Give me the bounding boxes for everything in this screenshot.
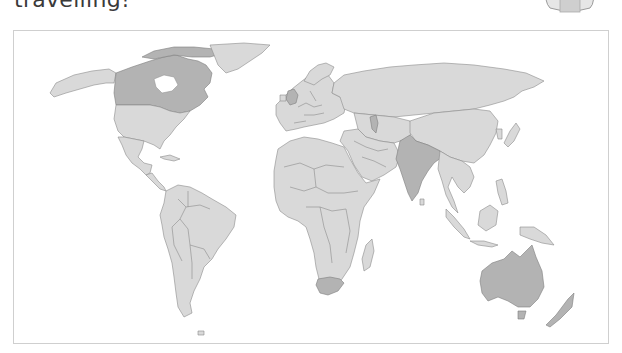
page-heading: travelling!: [14, 0, 130, 12]
country-russia[interactable]: [332, 63, 544, 117]
country-korea[interactable]: [496, 129, 502, 139]
country-greenland[interactable]: [210, 43, 270, 73]
central-america[interactable]: [146, 173, 166, 191]
country-mexico[interactable]: [118, 137, 152, 175]
country-philippines[interactable]: [496, 179, 508, 205]
country-south-africa[interactable]: [316, 277, 344, 295]
world-map-svg: [14, 31, 608, 343]
island-fragment: [198, 331, 204, 335]
country-japan[interactable]: [504, 123, 520, 147]
country-madagascar[interactable]: [362, 239, 374, 271]
country-ireland[interactable]: [280, 95, 286, 101]
country-papua-new-guinea[interactable]: [520, 227, 554, 245]
country-cuba[interactable]: [160, 155, 180, 161]
country-indonesia-sumatra[interactable]: [446, 209, 470, 239]
world-map: [13, 30, 609, 344]
country-new-zealand[interactable]: [546, 293, 574, 327]
south-america[interactable]: [160, 185, 236, 317]
australia-tasmania: [518, 311, 526, 319]
country-usa-alaska[interactable]: [50, 69, 116, 97]
country-indonesia-java[interactable]: [470, 241, 498, 247]
country-sri-lanka[interactable]: [420, 199, 424, 205]
country-australia[interactable]: [480, 245, 544, 307]
character-illustration: [540, 0, 598, 14]
country-indonesia-borneo[interactable]: [478, 205, 498, 231]
